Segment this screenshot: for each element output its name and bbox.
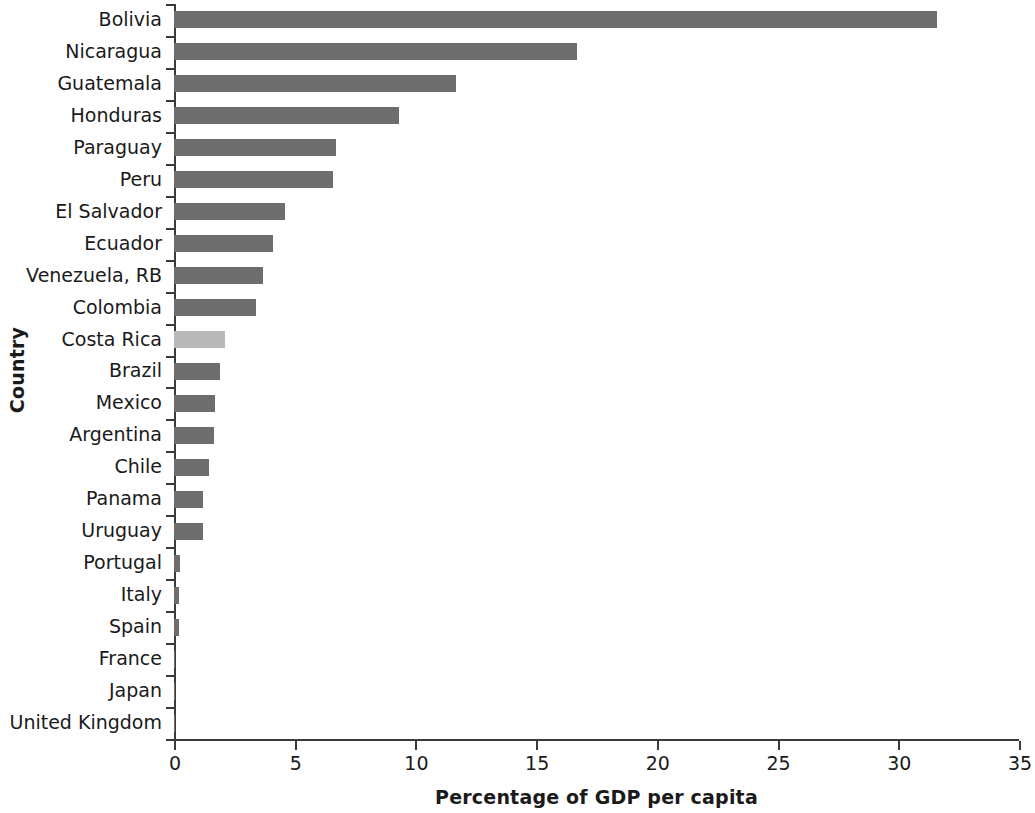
x-axis-tick-label: 20 bbox=[628, 754, 688, 773]
bar-row: Ecuador bbox=[0, 228, 1035, 260]
y-axis-tick bbox=[166, 36, 175, 38]
y-axis-tick bbox=[166, 451, 175, 453]
bar-row: Venezuela, RB bbox=[0, 260, 1035, 292]
y-axis-tick-label: Japan bbox=[0, 681, 162, 700]
bar-row: Peru bbox=[0, 164, 1035, 196]
bar bbox=[174, 203, 285, 220]
x-axis-tick-label: 30 bbox=[869, 754, 929, 773]
y-axis-tick bbox=[166, 100, 175, 102]
bar bbox=[174, 459, 209, 476]
bar-chart: Country BoliviaNicaraguaGuatemalaHondura… bbox=[0, 0, 1035, 813]
y-axis-tick-label: United Kingdom bbox=[0, 713, 162, 732]
bar bbox=[174, 299, 256, 316]
bar bbox=[174, 491, 203, 508]
y-axis-tick bbox=[166, 675, 175, 677]
y-axis-tick-label: Bolivia bbox=[0, 10, 162, 29]
y-axis-tick bbox=[166, 579, 175, 581]
x-axis-tick bbox=[536, 741, 538, 750]
y-axis-tick bbox=[166, 164, 175, 166]
x-axis-tick bbox=[657, 741, 659, 750]
bar-row: Colombia bbox=[0, 292, 1035, 324]
x-axis-tick-label: 25 bbox=[749, 754, 809, 773]
y-axis-tick-label: Ecuador bbox=[0, 234, 162, 253]
x-axis-tick bbox=[174, 741, 176, 750]
bar-row: Brazil bbox=[0, 356, 1035, 388]
y-axis-tick bbox=[166, 260, 175, 262]
y-axis-tick-label: Italy bbox=[0, 585, 162, 604]
bar bbox=[174, 395, 215, 412]
x-axis-tick bbox=[295, 741, 297, 750]
bar bbox=[174, 555, 180, 572]
bar-row: United Kingdom bbox=[0, 707, 1035, 739]
bar-row: Honduras bbox=[0, 100, 1035, 132]
y-axis-tick-label: Costa Rica bbox=[0, 330, 162, 349]
y-axis-tick-label: Guatemala bbox=[0, 74, 162, 93]
bar-row: Uruguay bbox=[0, 515, 1035, 547]
bar-row: Chile bbox=[0, 451, 1035, 483]
bar bbox=[174, 363, 220, 380]
y-axis-tick-label: Uruguay bbox=[0, 521, 162, 540]
y-axis-tick bbox=[166, 68, 175, 70]
y-axis-tick bbox=[166, 515, 175, 517]
bar-row: Paraguay bbox=[0, 132, 1035, 164]
y-axis-tick-label: France bbox=[0, 649, 162, 668]
x-axis-tick-label: 0 bbox=[145, 754, 205, 773]
x-axis-tick bbox=[778, 741, 780, 750]
bar-row: Bolivia bbox=[0, 4, 1035, 36]
y-axis-tick bbox=[166, 483, 175, 485]
y-axis-tick-label: Colombia bbox=[0, 298, 162, 317]
x-axis-title: Percentage of GDP per capita bbox=[174, 786, 1019, 808]
y-axis-tick bbox=[166, 547, 175, 549]
bar-row: Portugal bbox=[0, 547, 1035, 579]
y-axis-tick bbox=[166, 228, 175, 230]
y-axis-tick bbox=[166, 707, 175, 709]
x-axis-tick-label: 35 bbox=[990, 754, 1035, 773]
bar-row: Argentina bbox=[0, 419, 1035, 451]
y-axis-tick-label: Chile bbox=[0, 457, 162, 476]
bar bbox=[174, 587, 179, 604]
bar bbox=[174, 43, 577, 60]
bar bbox=[174, 683, 175, 700]
y-axis-tick bbox=[166, 324, 175, 326]
bar bbox=[174, 619, 179, 636]
bar-row: Panama bbox=[0, 483, 1035, 515]
x-axis-tick-label: 10 bbox=[386, 754, 446, 773]
bar-row: Guatemala bbox=[0, 68, 1035, 100]
y-axis-tick bbox=[166, 611, 175, 613]
y-axis-tick-label: Honduras bbox=[0, 106, 162, 125]
x-axis-tick-label: 15 bbox=[507, 754, 567, 773]
y-axis-tick-label: Argentina bbox=[0, 425, 162, 444]
x-axis-tick bbox=[415, 741, 417, 750]
x-axis-tick bbox=[1019, 741, 1021, 750]
bar bbox=[174, 235, 273, 252]
y-axis-tick-label: Brazil bbox=[0, 361, 162, 380]
y-axis-tick bbox=[166, 196, 175, 198]
y-axis-tick-label: El Salvador bbox=[0, 202, 162, 221]
bar bbox=[174, 651, 175, 668]
bar bbox=[174, 523, 203, 540]
x-axis-tick-label: 5 bbox=[266, 754, 326, 773]
y-axis-tick bbox=[166, 643, 175, 645]
x-axis-tick bbox=[898, 741, 900, 750]
bar-row: Nicaragua bbox=[0, 36, 1035, 68]
bar-row: France bbox=[0, 643, 1035, 675]
bar bbox=[174, 171, 333, 188]
bar-row: Japan bbox=[0, 675, 1035, 707]
y-axis-tick-label: Panama bbox=[0, 489, 162, 508]
bar bbox=[174, 331, 225, 348]
y-axis-tick bbox=[166, 4, 175, 6]
bar-row: El Salvador bbox=[0, 196, 1035, 228]
y-axis-tick-label: Nicaragua bbox=[0, 42, 162, 61]
y-axis-tick-label: Spain bbox=[0, 617, 162, 636]
bar-row: Italy bbox=[0, 579, 1035, 611]
y-axis-tick-label: Venezuela, RB bbox=[0, 266, 162, 285]
y-axis-tick-label: Peru bbox=[0, 170, 162, 189]
bar-row: Costa Rica bbox=[0, 324, 1035, 356]
bar bbox=[174, 75, 456, 92]
bar bbox=[174, 11, 937, 28]
y-axis-tick bbox=[166, 292, 175, 294]
bar-row: Spain bbox=[0, 611, 1035, 643]
bar bbox=[174, 267, 263, 284]
y-axis-tick bbox=[166, 419, 175, 421]
y-axis-tick bbox=[166, 132, 175, 134]
